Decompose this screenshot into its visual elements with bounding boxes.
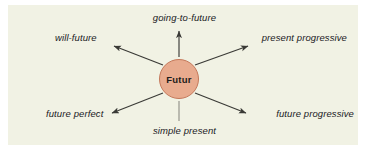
diagram-canvas: going-to-future will-future present prog… <box>0 0 369 154</box>
node-label-future-perfect: future perfect <box>46 108 103 119</box>
center-node-futur: Futur <box>159 59 199 99</box>
spoke-line-future-progressive <box>195 93 246 113</box>
node-label-will-future: will-future <box>55 32 97 43</box>
spoke-line-will-future <box>114 46 163 65</box>
node-label-going-to-future: going-to-future <box>153 12 216 23</box>
node-label-simple-present: simple present <box>153 125 216 136</box>
node-label-future-progressive: future progressive <box>276 108 354 119</box>
spoke-line-future-perfect <box>112 93 163 113</box>
node-label-present-progressive: present progressive <box>262 32 347 43</box>
center-node-label: Futur <box>166 74 191 85</box>
spoke-line-present-progressive <box>195 46 248 65</box>
